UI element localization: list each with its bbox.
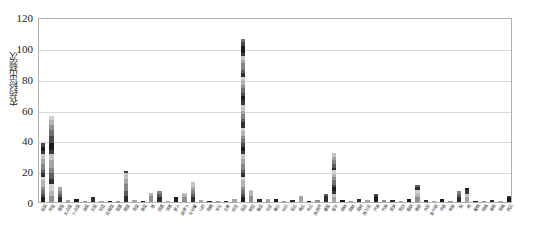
bar-segment — [473, 201, 477, 202]
bar-segment — [324, 196, 328, 202]
bar[interactable] — [407, 199, 411, 202]
bar[interactable] — [174, 197, 178, 202]
bar-segment — [191, 197, 195, 202]
bar[interactable] — [132, 200, 136, 202]
bar-segment — [357, 199, 361, 202]
bar-segment — [407, 199, 411, 202]
chart-container: 农药检出频次 020406080100120 韭菜芹菜菠菜大白菜小白菜油菜生菜甘… — [0, 0, 533, 248]
bar-series — [39, 19, 511, 202]
bar[interactable] — [415, 185, 419, 202]
bar[interactable] — [249, 190, 253, 202]
bar-segment — [232, 199, 236, 202]
bar[interactable] — [465, 188, 469, 202]
bar[interactable] — [382, 200, 386, 202]
bar[interactable] — [41, 143, 45, 202]
bar[interactable] — [157, 191, 161, 202]
bar[interactable] — [241, 39, 245, 202]
bar[interactable] — [166, 201, 170, 202]
bar[interactable] — [340, 200, 344, 202]
bar[interactable] — [58, 187, 62, 202]
bar[interactable] — [507, 196, 511, 202]
bar-segment — [149, 196, 153, 202]
bar[interactable] — [365, 200, 369, 202]
bar-segment — [440, 199, 444, 202]
x-tick-label: 蚕豆 — [257, 204, 265, 213]
bar-segment — [241, 197, 245, 202]
bar-segment — [108, 201, 112, 202]
bar[interactable] — [99, 201, 103, 202]
bar-segment — [91, 197, 95, 202]
bar[interactable] — [199, 200, 203, 202]
bar[interactable] — [448, 201, 452, 202]
y-tick-label: 80 — [22, 74, 33, 86]
bar[interactable] — [141, 201, 145, 202]
bar[interactable] — [66, 200, 70, 202]
x-tick-label: 豇豆 — [232, 204, 240, 213]
bar[interactable] — [482, 201, 486, 202]
bar[interactable] — [374, 194, 378, 202]
y-tick-label: 0 — [28, 197, 34, 209]
bar[interactable] — [191, 182, 195, 202]
bar[interactable] — [498, 201, 502, 202]
bar-segment — [465, 197, 469, 202]
bar[interactable] — [357, 199, 361, 202]
bar[interactable] — [332, 153, 336, 202]
bar[interactable] — [440, 199, 444, 202]
bar[interactable] — [424, 200, 428, 202]
bar-segment — [274, 199, 278, 202]
x-tick-label: 梨 — [459, 204, 465, 210]
x-tick-label: 辣椒 — [340, 204, 348, 213]
bar[interactable] — [182, 193, 186, 202]
bar-segment — [74, 199, 78, 202]
bar[interactable] — [290, 200, 294, 202]
bar[interactable] — [457, 191, 461, 202]
bar-segment — [424, 200, 428, 202]
bar[interactable] — [49, 116, 53, 202]
bar[interactable] — [224, 201, 228, 202]
bar[interactable] — [207, 201, 211, 202]
bar[interactable] — [149, 193, 153, 202]
x-tick-label: 香菜 — [141, 204, 149, 213]
y-tick-label: 40 — [22, 135, 33, 147]
bar[interactable] — [390, 200, 394, 202]
bar[interactable] — [307, 201, 311, 202]
bar-segment — [49, 160, 53, 168]
bar[interactable] — [324, 194, 328, 202]
bar-segment — [415, 197, 419, 202]
bar-segment — [99, 201, 103, 202]
x-tick-label: 草莓 — [498, 204, 506, 213]
bar-segment — [174, 197, 178, 202]
x-tick-label: 香蕉 — [490, 204, 498, 213]
bar[interactable] — [349, 201, 353, 202]
bar[interactable] — [473, 201, 477, 202]
bar[interactable] — [266, 199, 270, 202]
bar-segment — [282, 201, 286, 202]
bar[interactable] — [232, 199, 236, 202]
bar-segment — [224, 201, 228, 202]
bar[interactable] — [399, 201, 403, 202]
bar[interactable] — [257, 199, 261, 202]
bar-segment — [66, 200, 70, 202]
bar[interactable] — [108, 201, 112, 202]
bar[interactable] — [490, 200, 494, 202]
bar[interactable] — [83, 201, 87, 202]
x-axis-tick-labels: 韭菜芹菜菠菜大白菜小白菜油菜生菜甘蓝花椰菜菜薹茼蒿苋菜香菜葱蒜薹洋葱萝卜胡萝卜马… — [38, 204, 512, 248]
bar-segment — [374, 196, 378, 202]
bar-segment — [382, 200, 386, 202]
bar-segment — [257, 199, 261, 202]
bar[interactable] — [216, 201, 220, 202]
bar[interactable] — [315, 200, 319, 202]
bar-segment — [315, 200, 319, 202]
bar[interactable] — [274, 199, 278, 202]
y-tick-label: 20 — [22, 166, 33, 178]
bar[interactable] — [74, 199, 78, 202]
bar-segment — [216, 201, 220, 202]
bar[interactable] — [124, 171, 128, 202]
bar[interactable] — [91, 197, 95, 202]
bar[interactable] — [299, 196, 303, 202]
bar[interactable] — [282, 201, 286, 202]
bar[interactable] — [116, 201, 120, 202]
x-tick-label: 苹果 — [448, 204, 456, 213]
y-axis-tick-labels: 020406080100120 — [0, 0, 37, 248]
bar[interactable] — [432, 201, 436, 202]
